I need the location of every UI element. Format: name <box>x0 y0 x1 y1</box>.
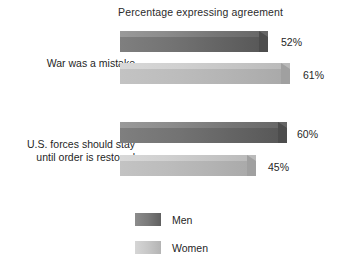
bar-men-war-was-a-mistake <box>120 31 268 52</box>
legend-swatch-men-icon <box>135 213 161 226</box>
bar-women-war-was-a-mistake <box>120 63 290 84</box>
legend-item-women: Women <box>135 241 208 254</box>
value-label-women-war-was-a-mistake: 61% <box>303 69 324 81</box>
legend-label-women: Women <box>172 242 208 254</box>
bar-end-cap-icon <box>278 122 287 143</box>
bar-men-us-forces-should-stay <box>120 122 287 143</box>
bar-end-cap-icon <box>281 63 290 84</box>
bar-front-face <box>120 37 268 52</box>
value-label-men-war-was-a-mistake: 52% <box>281 36 302 48</box>
category-label-us-forces-should-stay: U.S. forces should stay until order is r… <box>0 138 135 163</box>
bar-front-face <box>120 128 287 143</box>
category-label-war-was-a-mistake: War was a mistake <box>0 57 135 70</box>
chart-title: Percentage expressing agreement <box>118 6 283 18</box>
legend-label-men: Men <box>172 214 192 226</box>
bar-women-us-forces-should-stay <box>120 155 256 176</box>
bar-front-face <box>120 69 290 84</box>
bar-front-face <box>120 161 256 176</box>
legend-swatch-women-icon <box>135 241 161 254</box>
value-label-women-us-forces-should-stay: 45% <box>268 161 289 173</box>
legend-item-men: Men <box>135 213 192 226</box>
bar-end-cap-icon <box>247 155 256 176</box>
bar-end-cap-icon <box>259 31 268 52</box>
bar-chart: Percentage expressing agreement War was … <box>0 0 345 269</box>
value-label-men-us-forces-should-stay: 60% <box>297 128 318 140</box>
